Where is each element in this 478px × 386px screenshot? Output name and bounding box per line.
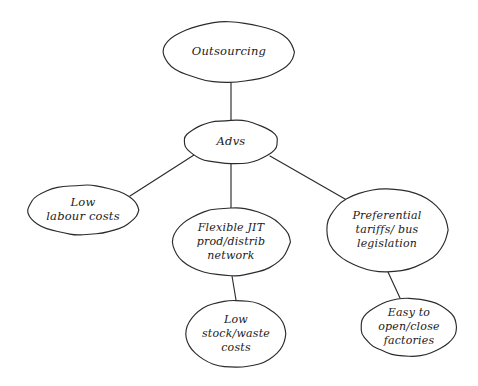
connector-advs-to-low-labour-costs (130, 155, 194, 196)
node-label-low-labour-costs: labour costs (46, 209, 120, 223)
node-label-flexible-jit: prod/distrib (197, 235, 266, 248)
mind-map-diagram: OutsourcingAdvsLowlabour costsFlexible J… (0, 0, 478, 386)
connector-preferential-tariffs-to-easy-open-close (388, 272, 400, 298)
node-outsourcing[interactable]: Outsourcing (163, 22, 294, 83)
node-label-low-labour-costs: Low (69, 195, 95, 209)
node-label-preferential-tariffs: Preferential (351, 209, 421, 222)
node-low-labour-costs[interactable]: Lowlabour costs (28, 185, 139, 235)
node-flexible-jit[interactable]: Flexible JITprod/distribnetwork (172, 208, 290, 276)
connector-flexible-jit-to-low-stock-waste (232, 276, 236, 300)
node-label-low-stock-waste: stock/waste (202, 327, 270, 340)
node-easy-open-close[interactable]: Easy toopen/closefactories (361, 298, 456, 356)
node-label-easy-open-close: factories (383, 334, 435, 347)
diagram-canvas: OutsourcingAdvsLowlabour costsFlexible J… (0, 0, 478, 386)
node-label-advs: Advs (216, 134, 246, 148)
node-label-easy-open-close: Easy to (387, 306, 431, 319)
node-label-low-stock-waste: costs (221, 341, 251, 354)
node-low-stock-waste[interactable]: Lowstock/wastecosts (186, 301, 286, 368)
node-label-flexible-jit: network (207, 249, 255, 262)
node-label-low-stock-waste: Low (223, 313, 248, 326)
node-label-easy-open-close: open/close (378, 320, 440, 333)
node-label-outsourcing: Outsourcing (192, 44, 266, 58)
node-advs[interactable]: Advs (184, 120, 277, 163)
node-preferential-tariffs[interactable]: Preferentialtariffs/ buslegislation (327, 189, 448, 272)
node-label-flexible-jit: Flexible JIT (197, 221, 266, 234)
node-label-preferential-tariffs: tariffs/ bus (356, 223, 419, 236)
connector-advs-to-preferential-tariffs (270, 156, 345, 199)
node-label-preferential-tariffs: legislation (357, 237, 417, 250)
